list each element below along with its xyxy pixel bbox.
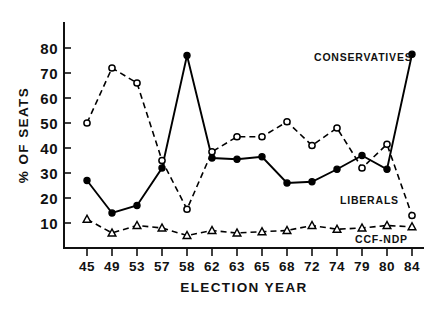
x-tick-label: 74: [329, 259, 345, 274]
x-tick-label: 80: [379, 259, 395, 274]
data-point-ccf-ndp: [308, 222, 316, 229]
x-tick-label: 72: [304, 259, 320, 274]
data-point-liberals: [234, 134, 240, 140]
y-tick-label: 10: [40, 215, 58, 232]
data-point-liberals: [84, 120, 90, 126]
x-tick-label: 79: [354, 259, 370, 274]
y-axis-tick-labels: 1020304050607080: [40, 40, 58, 232]
data-point-ccf-ndp: [358, 224, 366, 231]
data-point-conservatives: [284, 180, 290, 186]
series-annotation-liberals: LIBERALS: [340, 194, 399, 206]
x-tick-label: 63: [229, 259, 245, 274]
data-point-ccf-ndp: [208, 227, 216, 234]
data-point-liberals: [284, 119, 290, 125]
data-point-conservatives: [184, 52, 190, 58]
data-point-ccf-ndp: [233, 229, 241, 236]
data-point-ccf-ndp: [408, 223, 416, 230]
series-line-conservatives: [87, 54, 412, 213]
chart-plot-area: 1020304050607080 45495357586263656872747…: [0, 0, 439, 318]
series-annotation-conservatives: CONSERVATIVES: [314, 51, 413, 63]
data-point-ccf-ndp: [258, 228, 266, 235]
data-point-liberals: [184, 206, 190, 212]
series-annotation-ccf-ndp: CCF-NDP: [355, 233, 408, 245]
y-tick-label: 30: [40, 165, 58, 182]
x-tick-label: 84: [404, 259, 420, 274]
data-point-ccf-ndp: [158, 224, 166, 231]
x-tick-label: 62: [204, 259, 220, 274]
x-tick-label: 45: [79, 259, 95, 274]
data-point-liberals: [309, 142, 315, 148]
x-axis-ticks: [87, 248, 412, 256]
data-point-ccf-ndp: [333, 225, 341, 232]
data-point-liberals: [134, 80, 140, 86]
x-tick-label: 68: [279, 259, 295, 274]
x-tick-label: 65: [254, 259, 270, 274]
data-point-conservatives: [309, 179, 315, 185]
data-point-liberals: [159, 157, 165, 163]
data-point-conservatives: [334, 166, 340, 172]
data-point-liberals: [409, 212, 415, 218]
y-tick-label: 80: [40, 40, 58, 57]
data-point-liberals: [359, 165, 365, 171]
x-tick-label: 49: [104, 259, 120, 274]
y-axis-title: % OF SEATS: [16, 87, 31, 183]
series-markers: [83, 51, 416, 238]
x-tick-label: 57: [154, 259, 170, 274]
data-point-ccf-ndp: [83, 215, 91, 222]
data-point-conservatives: [159, 165, 165, 171]
data-point-ccf-ndp: [133, 222, 141, 229]
data-point-conservatives: [234, 156, 240, 162]
data-point-liberals: [259, 134, 265, 140]
x-axis-tick-labels: 4549535758626365687274798084: [79, 259, 420, 274]
x-tick-label: 58: [179, 259, 195, 274]
data-point-ccf-ndp: [108, 229, 116, 236]
data-point-liberals: [209, 149, 215, 155]
y-tick-label: 60: [40, 90, 58, 107]
data-point-liberals: [384, 141, 390, 147]
data-point-ccf-ndp: [283, 227, 291, 234]
election-seats-line-chart: 1020304050607080 45495357586263656872747…: [0, 0, 439, 318]
data-point-conservatives: [259, 154, 265, 160]
x-tick-label: 53: [129, 259, 145, 274]
y-tick-label: 40: [40, 140, 58, 157]
data-point-conservatives: [84, 177, 90, 183]
data-point-conservatives: [209, 155, 215, 161]
y-tick-label: 70: [40, 65, 58, 82]
y-tick-label: 50: [40, 115, 58, 132]
data-point-conservatives: [384, 166, 390, 172]
x-axis-title: ELECTION YEAR: [180, 280, 307, 295]
data-point-conservatives: [134, 202, 140, 208]
data-point-ccf-ndp: [383, 222, 391, 229]
data-point-conservatives: [359, 152, 365, 158]
data-point-liberals: [334, 125, 340, 131]
y-axis-ticks: [64, 48, 71, 223]
data-point-ccf-ndp: [183, 232, 191, 239]
y-tick-label: 20: [40, 190, 58, 207]
data-point-liberals: [109, 65, 115, 71]
series-annotations: CONSERVATIVESLIBERALSCCF-NDP: [314, 51, 413, 245]
data-point-conservatives: [109, 210, 115, 216]
